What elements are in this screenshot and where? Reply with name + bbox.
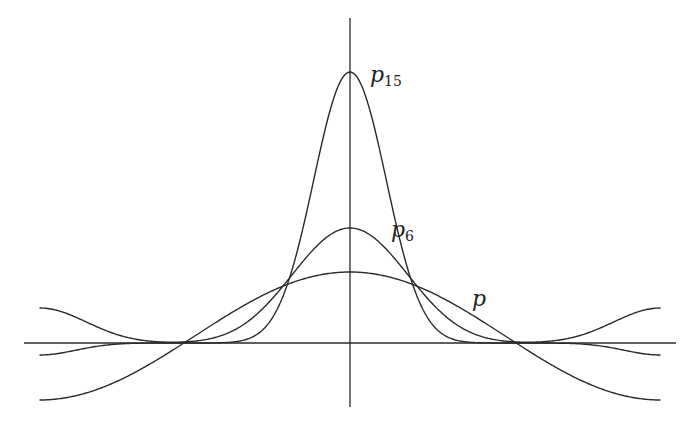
label-p15-sub: 15	[384, 73, 402, 89]
label-p: p	[472, 288, 486, 310]
label-p15: p15	[370, 64, 402, 88]
label-p6-base: p	[391, 217, 405, 242]
label-p6-sub: 6	[405, 228, 414, 244]
label-p15-base: p	[370, 62, 384, 87]
label-p6: p6	[391, 219, 414, 243]
diagram-canvas	[0, 0, 696, 430]
label-p-base: p	[472, 286, 486, 311]
